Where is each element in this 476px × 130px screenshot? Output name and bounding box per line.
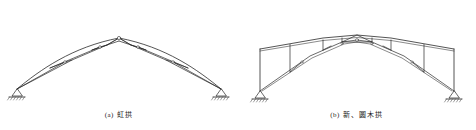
arch-chord-right (357, 40, 454, 91)
support-left (8, 89, 26, 100)
support-left-b (251, 91, 269, 102)
support-right (212, 89, 230, 100)
support-right-b (445, 91, 463, 102)
arch-chord-left-pair (262, 42, 357, 91)
node-right-lower-b (411, 61, 413, 63)
figure-b-drawing (238, 0, 476, 112)
arch-chord-right-pair (357, 42, 452, 91)
figure-b-panel: (b)新、圆木拱 (238, 0, 476, 130)
node-right-lower (172, 61, 175, 64)
inner-chord-left-a (17, 62, 65, 89)
figure-b-caption: (b)新、圆木拱 (238, 110, 476, 120)
upper-chord (17, 38, 221, 89)
figure-a-panel: (a)虹拱 (0, 0, 238, 130)
node-left-lower (64, 61, 67, 64)
figure-a-caption-index: (a) (105, 111, 114, 119)
node-right-upper (137, 46, 140, 49)
node-apex (117, 36, 120, 39)
node-left-lower-b (301, 61, 303, 63)
figure-b-caption-text: 新、圆木拱 (343, 111, 384, 119)
brace-left-2 (323, 46, 331, 50)
brace-left-1 (290, 62, 302, 72)
figure-plate: (a)虹拱 (0, 0, 476, 130)
node-left-upper (99, 46, 102, 49)
brace-right-2 (383, 46, 391, 50)
figure-a-caption: (a)虹拱 (0, 110, 238, 120)
node-right-upper-b (371, 42, 373, 44)
arch-chord-left (260, 40, 357, 91)
figure-a-caption-text: 虹拱 (117, 111, 133, 119)
figure-a-drawing (0, 0, 238, 112)
node-apex-b (356, 39, 359, 42)
node-left-upper-b (341, 42, 343, 44)
inner-chord-right-a (173, 62, 221, 89)
figure-b-caption-index: (b) (330, 111, 339, 119)
brace-right-1 (412, 62, 424, 72)
